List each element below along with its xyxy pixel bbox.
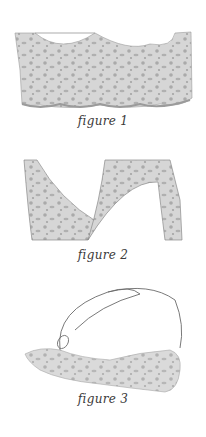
figure-3-caption: figure 3: [0, 392, 206, 406]
figure-3: figure 3: [0, 280, 206, 437]
lace-tie-illustration: [0, 280, 206, 437]
figure-1: figure 1: [0, 0, 206, 140]
figure-1-caption: figure 1: [0, 114, 206, 128]
figure-2-caption: figure 2: [0, 248, 206, 262]
figure-2: figure 2: [0, 140, 206, 280]
